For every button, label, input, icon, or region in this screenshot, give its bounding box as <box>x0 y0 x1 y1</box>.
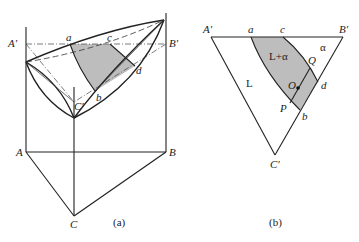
label-C-prime: C′ <box>74 100 84 112</box>
region-label-alpha: α <box>320 41 326 53</box>
solidus-A-C <box>26 62 74 118</box>
label-C: C <box>70 218 78 230</box>
region-label-L-plus-alpha: L+α <box>269 50 288 62</box>
base-AC <box>26 152 74 216</box>
label-B-prime: B′ <box>169 37 179 49</box>
label-c: c <box>280 23 285 35</box>
base-BC <box>74 152 166 216</box>
label-B-prime: B′ <box>339 23 349 35</box>
label-d: d <box>321 79 327 91</box>
point-O <box>296 86 300 90</box>
label-O: O <box>288 79 296 91</box>
label-d: d <box>136 64 142 76</box>
label-a: a <box>66 31 72 43</box>
figure-b-two-phase-region <box>251 37 318 110</box>
label-P: P <box>279 102 287 114</box>
label-a: a <box>248 23 254 35</box>
tie-line-A-C-prime <box>26 62 74 102</box>
liquidus-A-C <box>26 62 74 118</box>
ternary-phase-diagram: A′ B′ C′ a c d b A B C (a) A′ B′ C′ a c … <box>0 0 359 242</box>
caption-b: (b) <box>269 216 282 229</box>
label-c: c <box>107 31 112 43</box>
figure-b-isothermal-section: A′ B′ C′ a c d b Q O P L L+α α (b) <box>202 23 349 229</box>
label-b: b <box>96 91 102 103</box>
label-Q: Q <box>308 54 316 66</box>
label-C-prime: C′ <box>270 158 280 170</box>
label-A: A <box>15 146 23 158</box>
label-A-prime: A′ <box>7 37 18 49</box>
caption-a: (a) <box>113 216 126 229</box>
region-label-L: L <box>246 77 253 89</box>
label-A-prime: A′ <box>202 23 213 35</box>
label-B: B <box>169 146 176 158</box>
figure-a-prism: A′ B′ C′ a c d b A B C (a) <box>7 13 179 230</box>
label-b: b <box>302 110 308 122</box>
